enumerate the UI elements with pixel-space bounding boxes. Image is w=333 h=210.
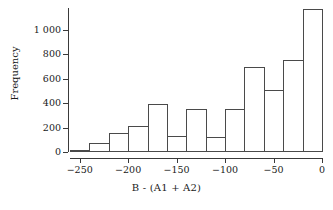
y-axis-tick (63, 128, 68, 129)
histogram-bar (225, 109, 245, 152)
histogram-bar (303, 9, 323, 152)
y-axis-title: Frequency (9, 29, 20, 119)
x-axis-title: B - (A1 + A2) (0, 182, 333, 193)
histogram-bar (148, 104, 168, 152)
x-axis-tick-label: −50 (264, 165, 284, 175)
y-axis-tick (63, 103, 68, 104)
x-axis-tick-label: −250 (67, 165, 93, 175)
x-axis-tick (177, 158, 178, 163)
y-axis-tick-label-wrap: 200 (0, 123, 61, 133)
x-axis-tick (225, 158, 226, 163)
histogram-bar (89, 143, 109, 152)
histogram-bar (167, 136, 187, 152)
x-axis-line (70, 158, 322, 159)
histogram-bar (283, 60, 303, 152)
y-axis-tick (63, 54, 68, 55)
histogram-bar (186, 109, 206, 152)
bar-series (70, 8, 322, 152)
histogram-bar (128, 126, 148, 152)
y-axis-tick-label: 200 (0, 123, 61, 133)
y-axis-tick (63, 79, 68, 80)
x-axis-tick-label: −100 (212, 165, 238, 175)
x-axis-tick-label: −150 (164, 165, 190, 175)
x-axis-tick (128, 158, 129, 163)
y-axis-tick-label: 0 (0, 147, 61, 157)
histogram-bar (109, 133, 129, 152)
x-axis-tick (274, 158, 275, 163)
x-axis-tick-label: 0 (319, 165, 325, 175)
histogram-figure: 02004006008001 000 Frequency −250−200−15… (0, 0, 333, 210)
y-axis-line (68, 8, 69, 152)
y-axis-tick (63, 30, 68, 31)
y-axis-tick-label-wrap: 0 (0, 147, 61, 157)
histogram-bar (206, 137, 226, 152)
histogram-bar (70, 150, 90, 152)
histogram-bar (264, 90, 284, 152)
y-axis-tick (63, 152, 68, 153)
x-axis-tick-label: −200 (115, 165, 141, 175)
x-axis-tick (322, 158, 323, 163)
x-axis-tick (80, 158, 81, 163)
histogram-bar (244, 67, 264, 152)
